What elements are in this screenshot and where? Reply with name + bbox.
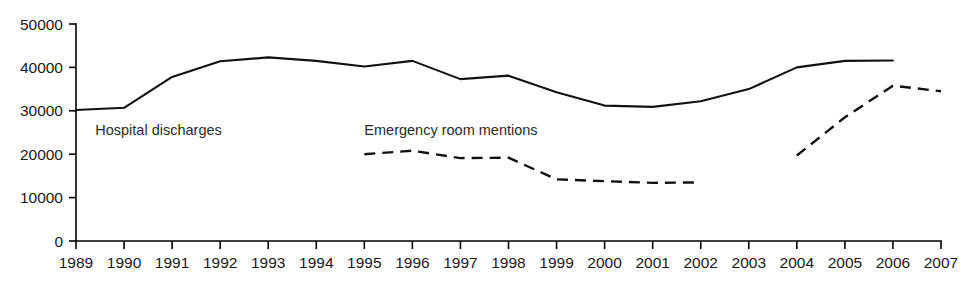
line-chart: 01000020000300004000050000 1989199019911…: [0, 0, 960, 300]
x-tick-label: 2003: [732, 254, 766, 271]
x-tick-label: 1994: [299, 254, 334, 271]
series-segment-emergency-room-mentions: [797, 86, 941, 156]
series-label-hospital-discharges: Hospital discharges: [95, 122, 222, 138]
x-tick-label: 2000: [587, 254, 622, 271]
chart-plot-area: 01000020000300004000050000 1989199019911…: [0, 0, 960, 300]
y-tick-label: 20000: [20, 146, 63, 163]
y-tick-label: 0: [54, 233, 63, 250]
x-tick-label: 1995: [347, 254, 381, 271]
x-tick-label: 2002: [683, 254, 717, 271]
x-tick-label: 2004: [780, 254, 815, 271]
x-tick-label: 2005: [828, 254, 862, 271]
x-axis-tick-marks: [76, 241, 941, 249]
series-annotations: Hospital dischargesEmergency room mentio…: [95, 122, 537, 138]
x-tick-label: 1999: [539, 254, 573, 271]
x-tick-label: 1997: [443, 254, 477, 271]
y-tick-label: 50000: [20, 16, 63, 33]
x-tick-label: 2001: [635, 254, 669, 271]
x-tick-label: 1991: [155, 254, 189, 271]
x-tick-label: 1993: [251, 254, 285, 271]
y-tick-label: 30000: [20, 102, 63, 119]
x-tick-label: 1989: [59, 254, 93, 271]
y-axis-tick-marks: [69, 24, 76, 241]
y-tick-label: 10000: [20, 189, 63, 206]
x-tick-label: 1996: [395, 254, 429, 271]
series-line-hospital-discharges: [76, 57, 893, 110]
x-axis-tick-labels: 1989199019911992199319941995199619971998…: [59, 254, 958, 271]
y-axis-tick-labels: 01000020000300004000050000: [20, 16, 63, 250]
series-segment-emergency-room-mentions: [364, 151, 700, 183]
y-tick-label: 40000: [20, 59, 63, 76]
x-tick-label: 2007: [924, 254, 958, 271]
series-label-emergency-room-mentions: Emergency room mentions: [364, 122, 537, 138]
x-tick-label: 2006: [876, 254, 910, 271]
x-tick-label: 1992: [203, 254, 237, 271]
x-tick-label: 1998: [491, 254, 525, 271]
x-tick-label: 1990: [107, 254, 142, 271]
